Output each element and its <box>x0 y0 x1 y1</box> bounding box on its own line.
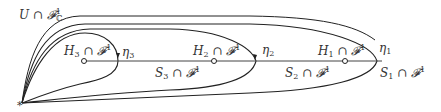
label-eta3: η3 <box>122 46 134 60</box>
h3-rest: ∩ 𝓕 <box>80 44 107 58</box>
eta2-idx: 2 <box>269 49 274 58</box>
s2-rest: ∩ 𝓕 <box>298 66 325 80</box>
h1-sup: 1 <box>360 43 365 52</box>
outer-label-sub: ℂ <box>56 14 62 23</box>
diagram-canvas: U ∩ 𝓕1ℂ H3 ∩ 𝓕1 η3 H2 ∩ 𝓕1 η2 S3 ∩ 𝓕1 H1… <box>0 0 441 112</box>
label-s1: S1 ∩ 𝓕1 <box>380 66 425 81</box>
loop-eta1 <box>22 24 377 103</box>
eta3-idx: 3 <box>129 51 134 60</box>
label-h3: H3 ∩ 𝓕1 <box>64 44 111 59</box>
point-h1-icon <box>343 59 348 64</box>
h2-rest: ∩ 𝓕 <box>209 44 236 58</box>
s3-sup: 1 <box>195 65 200 74</box>
label-s3: S3 ∩ 𝓕1 <box>155 66 200 81</box>
label-outer-region: U ∩ 𝓕1ℂ <box>19 8 62 23</box>
h3-main: H <box>64 44 74 58</box>
outer-boundary-curve <box>22 16 375 103</box>
arrow-eta3-icon <box>116 53 120 58</box>
label-h1: H1 ∩ 𝓕1 <box>318 44 365 59</box>
s3-main: S <box>155 66 163 80</box>
label-eta1: η1 <box>379 42 391 56</box>
s1-sup: 1 <box>420 65 425 74</box>
h2-sup: 1 <box>235 43 240 52</box>
h1-main: H <box>318 44 328 58</box>
label-s2: S2 ∩ 𝓕1 <box>285 66 330 81</box>
h1-rest: ∩ 𝓕 <box>334 44 361 58</box>
label-eta2: η2 <box>262 44 274 58</box>
s1-main: S <box>380 66 388 80</box>
label-h2: H2 ∩ 𝓕1 <box>193 44 240 59</box>
h2-main: H <box>193 44 203 58</box>
outer-label-main: U ∩ <box>19 8 47 22</box>
outer-label-f: 𝓕 <box>47 8 56 22</box>
s3-rest: ∩ 𝓕 <box>168 66 195 80</box>
s2-main: S <box>285 66 293 80</box>
s1-rest: ∩ 𝓕 <box>393 66 420 80</box>
point-h2-icon <box>212 59 217 64</box>
h3-sup: 1 <box>106 43 111 52</box>
loop-eta2 <box>22 29 256 103</box>
point-h3-icon <box>82 59 87 64</box>
base-point-label: * <box>17 100 23 111</box>
eta1-idx: 1 <box>386 47 391 56</box>
s2-sup: 1 <box>325 65 330 74</box>
